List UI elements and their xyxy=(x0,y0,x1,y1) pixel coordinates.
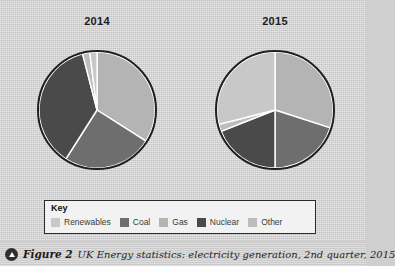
pie-svg-2014 xyxy=(35,48,159,172)
legend-label-other: Other xyxy=(261,217,282,227)
legend-item-nuclear: Nuclear xyxy=(197,217,239,227)
legend-swatch-renewables xyxy=(51,218,60,227)
legend-label-renewables: Renewables xyxy=(64,217,111,227)
chart-title-2014: 2014 xyxy=(62,15,132,27)
legend-swatch-coal xyxy=(120,218,129,227)
legend-item-coal: Coal xyxy=(120,217,150,227)
figure-caption-text: UK Energy statistics: electricity genera… xyxy=(78,249,395,260)
triangle-up-circle-icon xyxy=(5,248,18,261)
figure-number: Figure 2 xyxy=(23,248,73,260)
legend-item-gas: Gas xyxy=(159,217,188,227)
legend-swatch-gas xyxy=(159,218,168,227)
pie-svg-2015 xyxy=(213,48,337,172)
legend-key-box: Key Renewables Coal Gas Nuclear Other xyxy=(44,200,316,234)
legend-title: Key xyxy=(51,203,68,213)
figure-panel: 2014 2015 Key Renewables Coal Gas xyxy=(0,0,366,240)
pie-chart-2014 xyxy=(35,48,159,172)
legend-label-gas: Gas xyxy=(172,217,188,227)
legend-label-nuclear: Nuclear xyxy=(210,217,239,227)
legend-item-renewables: Renewables xyxy=(51,217,111,227)
legend-swatch-other xyxy=(248,218,257,227)
chart-title-2015: 2015 xyxy=(240,15,310,27)
figure-caption: Figure 2 UK Energy statistics: electrici… xyxy=(0,242,366,266)
legend-items: Renewables Coal Gas Nuclear Other xyxy=(51,217,311,227)
legend-label-coal: Coal xyxy=(133,217,150,227)
legend-swatch-nuclear xyxy=(197,218,206,227)
pie-chart-2015 xyxy=(213,48,337,172)
legend-item-other: Other xyxy=(248,217,282,227)
